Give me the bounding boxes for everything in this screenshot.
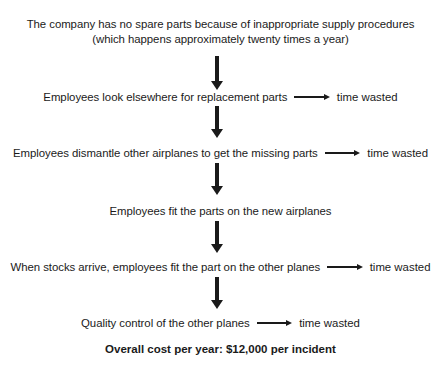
- arrow-head: [211, 300, 223, 309]
- right-arrow-icon-2: [325, 150, 361, 156]
- process-step-3: Employees fit the parts on the new airpl…: [0, 203, 441, 219]
- right-arrow-icon-5: [257, 320, 293, 326]
- step-2-label: Employees dismantle other airplanes to g…: [13, 146, 318, 161]
- down-arrow-icon-2: [211, 106, 223, 138]
- process-step-4: When stocks arrive, employees fit the pa…: [0, 259, 441, 275]
- down-arrow-icon-4: [211, 221, 223, 253]
- diagram-title-line-2: (which happens approximately twenty time…: [0, 32, 441, 47]
- diagram-title-line-1: The company has no spare parts because o…: [0, 17, 441, 32]
- arrow-head: [324, 94, 330, 100]
- down-arrow-icon-5: [211, 277, 223, 309]
- diagram-title: The company has no spare parts because o…: [0, 17, 441, 47]
- step-4-outcome: time wasted: [370, 261, 431, 273]
- arrow-stem: [215, 163, 218, 187]
- step-3-label: Employees fit the parts on the new airpl…: [110, 204, 332, 219]
- arrow-shaft: [257, 322, 287, 324]
- overall-cost-summary: Overall cost per year: $12,000 per incid…: [0, 343, 441, 355]
- right-arrow-icon-1: [294, 94, 330, 100]
- arrow-head: [211, 186, 223, 195]
- step-1-outcome: time wasted: [337, 91, 398, 103]
- process-step-2: Employees dismantle other airplanes to g…: [0, 145, 441, 161]
- process-step-1: Employees look elsewhere for replacement…: [0, 89, 441, 105]
- process-flow-diagram: The company has no spare parts because o…: [0, 0, 441, 376]
- arrow-shaft: [294, 96, 324, 98]
- arrow-stem: [215, 106, 218, 130]
- down-arrow-icon-1: [211, 56, 223, 90]
- arrow-stem: [215, 277, 218, 301]
- arrow-head: [286, 320, 292, 326]
- arrow-head: [354, 150, 360, 156]
- arrow-head: [357, 264, 363, 270]
- arrow-head: [211, 129, 223, 138]
- step-4-label: When stocks arrive, employees fit the pa…: [11, 260, 321, 275]
- step-5-outcome: time wasted: [299, 317, 360, 329]
- arrow-stem: [215, 221, 218, 245]
- arrow-head: [211, 244, 223, 253]
- step-1-label: Employees look elsewhere for replacement…: [43, 90, 287, 105]
- down-arrow-icon-3: [211, 163, 223, 195]
- step-2-outcome: time wasted: [367, 147, 428, 159]
- arrow-shaft: [325, 152, 355, 154]
- arrow-stem: [215, 56, 218, 82]
- arrow-shaft: [327, 266, 357, 268]
- right-arrow-icon-4: [327, 264, 363, 270]
- step-5-label: Quality control of the other planes: [81, 316, 250, 331]
- process-step-5: Quality control of the other planes time…: [0, 315, 441, 331]
